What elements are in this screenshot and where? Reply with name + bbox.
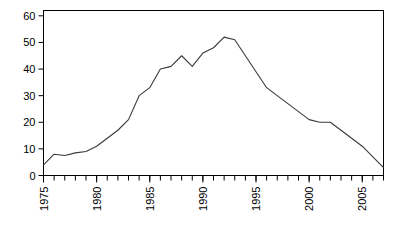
y-axis-tick-label: 60 bbox=[23, 10, 35, 22]
chart-plot-area: 0102030405060197519801985199019952000200… bbox=[0, 0, 395, 225]
x-axis-tick-label: 1980 bbox=[91, 187, 103, 211]
x-axis-tick-label: 2000 bbox=[303, 187, 315, 211]
x-axis-tick-label: 2005 bbox=[356, 187, 368, 211]
y-axis-tick-label: 0 bbox=[29, 170, 35, 182]
y-axis-tick-label: 20 bbox=[23, 116, 35, 128]
y-axis-tick-label: 50 bbox=[23, 36, 35, 48]
x-axis-tick-label: 1975 bbox=[38, 187, 50, 211]
x-axis-tick-label: 1995 bbox=[250, 187, 262, 211]
x-axis-tick-label: 1990 bbox=[197, 187, 209, 211]
plot-frame bbox=[44, 11, 384, 176]
y-axis-tick-label: 30 bbox=[23, 90, 35, 102]
x-axis-tick-label: 1985 bbox=[144, 187, 156, 211]
data-line-series-1 bbox=[44, 37, 384, 167]
y-axis-tick-label: 40 bbox=[23, 63, 35, 75]
y-axis-tick-label: 10 bbox=[23, 143, 35, 155]
chart-figure: 0102030405060197519801985199019952000200… bbox=[0, 0, 395, 225]
